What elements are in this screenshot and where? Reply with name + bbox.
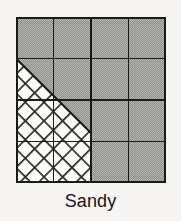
figure-caption: Sandy xyxy=(0,190,181,212)
grid-diagram xyxy=(16,17,166,183)
soil-texture-figure: Sandy xyxy=(0,0,181,221)
grid-svg xyxy=(16,17,166,183)
